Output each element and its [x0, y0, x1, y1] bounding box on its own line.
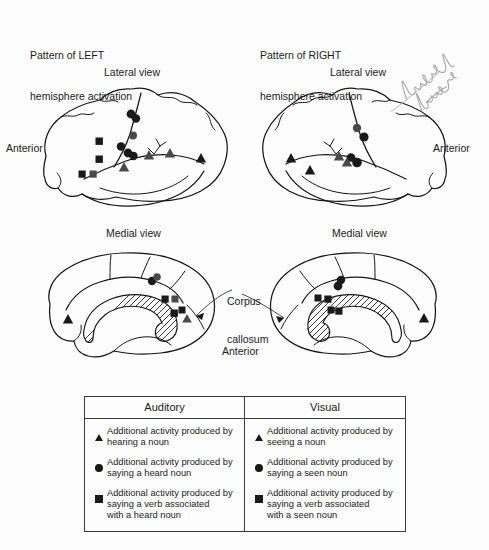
right-panel-heading-line1: Pattern of RIGHT — [260, 49, 362, 63]
legend-item-text: Additional activity produced by saying a… — [267, 488, 393, 522]
legend-item-text: Additional activity produced by saying a… — [107, 457, 233, 480]
legend-item-text: Additional activity produced by saying a… — [267, 457, 393, 480]
legend-header-row: Auditory Visual — [85, 397, 405, 419]
legend-header-visual: Visual — [245, 397, 405, 418]
legend-header-auditory: Auditory — [85, 397, 245, 418]
circle-marker-icon — [251, 457, 267, 476]
left-panel-heading-line1: Pattern of LEFT — [30, 49, 132, 63]
circle-marker-icon — [91, 457, 107, 476]
legend-item: Additional activity produced by saying a… — [251, 457, 401, 480]
legend-table: Auditory Visual Additional activity prod… — [84, 396, 406, 532]
left-lateral-brain-diagram — [28, 84, 238, 209]
legend-item-text: Additional activity produced by saying a… — [107, 488, 233, 522]
figure-canvas: Pattern of LEFT hemisphere activation Pa… — [0, 0, 489, 550]
legend-item-text: Additional activity produced by hearing … — [107, 426, 233, 449]
square-marker-icon — [91, 488, 107, 507]
left-medial-view-label: Medial view — [106, 227, 161, 240]
legend-item-text: Additional activity produced by seeing a… — [267, 426, 393, 449]
legend-column-auditory: Additional activity produced by hearing … — [85, 419, 245, 531]
square-marker-icon — [251, 488, 267, 507]
right-lateral-brain-diagram — [252, 84, 462, 209]
legend-item: Additional activity produced by hearing … — [91, 426, 240, 449]
legend-item: Additional activity produced by saying a… — [91, 488, 240, 522]
legend-body: Additional activity produced by hearing … — [85, 419, 405, 531]
legend-item: Additional activity produced by seeing a… — [251, 426, 401, 449]
legend-item: Additional activity produced by saying a… — [91, 457, 240, 480]
right-lateral-view-label: Lateral view — [330, 66, 386, 79]
legend-item: Additional activity produced by saying a… — [251, 488, 401, 522]
triangle-marker-icon — [91, 426, 107, 445]
left-lateral-view-label: Lateral view — [104, 66, 160, 79]
legend-column-visual: Additional activity produced by seeing a… — [245, 419, 405, 531]
triangle-marker-icon — [251, 426, 267, 445]
right-medial-view-label: Medial view — [332, 227, 387, 240]
corpus-callosum-leader-lines — [150, 288, 350, 334]
